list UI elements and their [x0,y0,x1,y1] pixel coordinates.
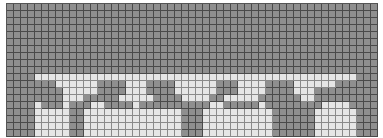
grid-cell[interactable] [28,102,35,109]
grid-cell[interactable] [182,4,189,11]
grid-cell[interactable] [224,11,231,18]
grid-cell[interactable] [147,4,154,11]
grid-cell[interactable] [343,102,350,109]
grid-cell[interactable] [161,130,168,137]
grid-cell[interactable] [161,60,168,67]
grid-cell[interactable] [336,130,343,137]
grid-cell[interactable] [245,116,252,123]
grid-cell[interactable] [273,11,280,18]
grid-cell[interactable] [147,32,154,39]
grid-cell[interactable] [119,109,126,116]
grid-cell[interactable] [175,67,182,74]
grid-cell[interactable] [364,67,371,74]
grid-cell[interactable] [224,130,231,137]
grid-cell[interactable] [154,102,161,109]
grid-cell[interactable] [77,74,84,81]
grid-cell[interactable] [350,130,357,137]
grid-cell[interactable] [133,123,140,130]
grid-cell[interactable] [287,123,294,130]
grid-cell[interactable] [119,88,126,95]
grid-cell[interactable] [273,4,280,11]
grid-cell[interactable] [259,32,266,39]
grid-cell[interactable] [91,109,98,116]
grid-cell[interactable] [371,130,378,137]
grid-cell[interactable] [217,102,224,109]
grid-cell[interactable] [42,32,49,39]
grid-cell[interactable] [245,88,252,95]
grid-cell[interactable] [252,39,259,46]
grid-cell[interactable] [42,123,49,130]
grid-cell[interactable] [336,95,343,102]
grid-cell[interactable] [350,74,357,81]
grid-cell[interactable] [245,123,252,130]
grid-cell[interactable] [98,95,105,102]
grid-cell[interactable] [210,46,217,53]
grid-cell[interactable] [21,88,28,95]
grid-cell[interactable] [238,60,245,67]
grid-cell[interactable] [182,123,189,130]
grid-cell[interactable] [336,74,343,81]
grid-cell[interactable] [343,32,350,39]
grid-cell[interactable] [147,130,154,137]
grid-cell[interactable] [161,109,168,116]
grid-cell[interactable] [147,60,154,67]
grid-cell[interactable] [168,67,175,74]
grid-cell[interactable] [70,116,77,123]
grid-cell[interactable] [112,81,119,88]
grid-cell[interactable] [84,130,91,137]
grid-cell[interactable] [308,11,315,18]
grid-cell[interactable] [364,53,371,60]
grid-cell[interactable] [217,25,224,32]
grid-cell[interactable] [245,11,252,18]
grid-cell[interactable] [77,81,84,88]
grid-cell[interactable] [140,53,147,60]
grid-cell[interactable] [147,11,154,18]
grid-cell[interactable] [217,109,224,116]
grid-cell[interactable] [364,123,371,130]
grid-cell[interactable] [364,95,371,102]
grid-cell[interactable] [21,109,28,116]
grid-cell[interactable] [63,81,70,88]
grid-cell[interactable] [315,116,322,123]
grid-cell[interactable] [126,88,133,95]
grid-cell[interactable] [182,67,189,74]
grid-cell[interactable] [70,60,77,67]
grid-cell[interactable] [238,46,245,53]
grid-cell[interactable] [63,88,70,95]
grid-cell[interactable] [42,95,49,102]
grid-cell[interactable] [322,46,329,53]
grid-cell[interactable] [273,18,280,25]
grid-cell[interactable] [133,109,140,116]
grid-cell[interactable] [112,130,119,137]
grid-cell[interactable] [259,67,266,74]
grid-cell[interactable] [21,102,28,109]
grid-cell[interactable] [7,67,14,74]
grid-cell[interactable] [119,74,126,81]
grid-cell[interactable] [126,4,133,11]
grid-cell[interactable] [91,95,98,102]
grid-cell[interactable] [280,53,287,60]
grid-cell[interactable] [119,25,126,32]
grid-cell[interactable] [350,60,357,67]
grid-cell[interactable] [231,81,238,88]
grid-cell[interactable] [315,4,322,11]
grid-cell[interactable] [343,123,350,130]
grid-cell[interactable] [196,81,203,88]
grid-cell[interactable] [322,4,329,11]
grid-cell[interactable] [224,4,231,11]
grid-cell[interactable] [315,74,322,81]
grid-cell[interactable] [371,67,378,74]
grid-cell[interactable] [154,95,161,102]
grid-cell[interactable] [119,116,126,123]
grid-cell[interactable] [189,32,196,39]
grid-cell[interactable] [294,46,301,53]
grid-cell[interactable] [175,46,182,53]
grid-cell[interactable] [119,102,126,109]
grid-cell[interactable] [7,46,14,53]
grid-cell[interactable] [245,39,252,46]
grid-cell[interactable] [91,11,98,18]
grid-cell[interactable] [147,46,154,53]
grid-cell[interactable] [154,32,161,39]
grid-cell[interactable] [252,116,259,123]
grid-cell[interactable] [70,109,77,116]
